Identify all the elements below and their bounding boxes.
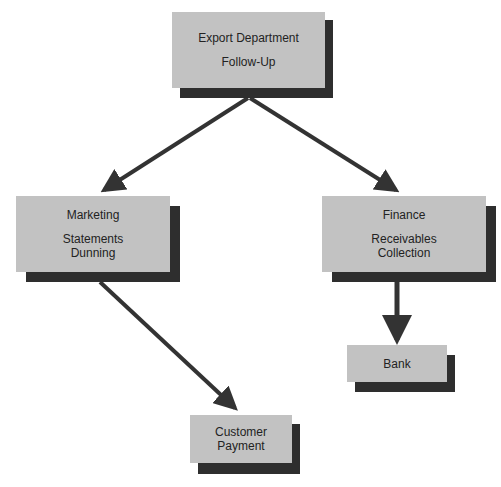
node-title: Marketing (67, 208, 120, 222)
node-box: Marketing Statements Dunning (16, 196, 170, 272)
node-text: Dunning (71, 246, 116, 260)
node-text: Follow-Up (221, 55, 275, 69)
node-box: Customer Payment (190, 415, 292, 463)
node-box: Bank (347, 345, 447, 382)
arrow-export-to-marketing (104, 98, 248, 190)
node-text: Collection (378, 246, 431, 260)
node-text: Customer (215, 425, 267, 439)
node-text: Payment (217, 439, 264, 453)
node-box: Export Department Follow-Up (172, 12, 325, 88)
node-title: Export Department (198, 31, 299, 45)
node-text: Statements (63, 232, 124, 246)
node-box: Finance Receivables Collection (322, 196, 486, 272)
arrow-export-to-finance (250, 98, 396, 190)
node-text: Receivables (371, 232, 436, 246)
arrow-marketing-to-customer (100, 282, 235, 408)
node-title: Finance (383, 208, 426, 222)
node-title: Bank (383, 357, 410, 371)
